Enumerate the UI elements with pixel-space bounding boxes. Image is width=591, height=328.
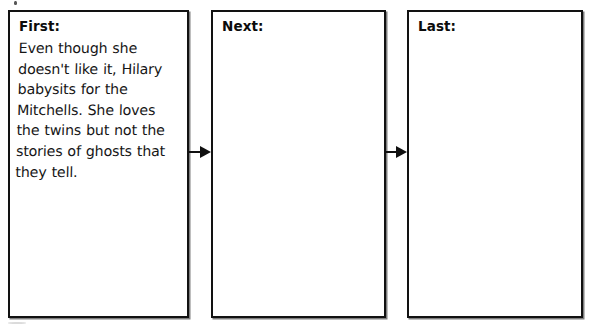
- sequence-graphic-organizer: First: Even though she doesn't like it, …: [0, 0, 591, 328]
- panel-last-content: Last:: [409, 12, 581, 316]
- scan-artifact-speck: [14, 1, 17, 5]
- panel-next-label: Next:: [222, 18, 375, 35]
- panel-next-content: Next:: [213, 12, 384, 316]
- arrow-right-icon-next-to-last: [385, 146, 408, 158]
- panel-first-label: First:: [19, 18, 178, 35]
- scan-artifact-smudge: [8, 322, 26, 324]
- panel-first-content: First: Even though she doesn't like it, …: [10, 12, 187, 316]
- arrow-head: [200, 146, 211, 158]
- arrow-head: [396, 146, 407, 158]
- arrow-right-icon-first-to-next: [188, 146, 212, 158]
- panel-first[interactable]: First: Even though she doesn't like it, …: [8, 10, 189, 318]
- panel-first-text[interactable]: Even though she doesn't like it, Hilary …: [15, 38, 178, 182]
- panel-next[interactable]: Next:: [211, 10, 386, 318]
- panel-last-label: Last:: [418, 18, 572, 35]
- panel-last[interactable]: Last:: [407, 10, 583, 318]
